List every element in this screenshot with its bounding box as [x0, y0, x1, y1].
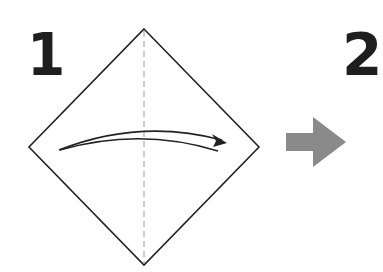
step-number-1: 1 [27, 26, 65, 84]
next-step-arrow-icon [286, 117, 346, 167]
step-number-2: 2 [342, 26, 382, 84]
